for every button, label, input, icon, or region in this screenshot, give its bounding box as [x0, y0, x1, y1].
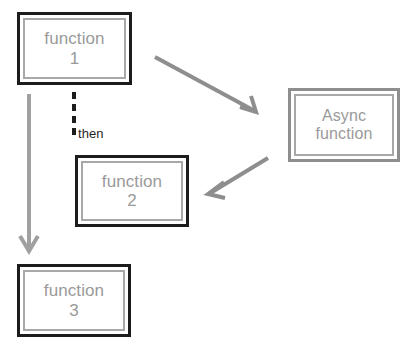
node-async-function[interactable]: Async function — [288, 88, 400, 162]
dash-segment — [72, 92, 76, 99]
node-function-2[interactable]: function 2 — [75, 155, 189, 227]
arrow-function-1-to-function-3 — [20, 94, 38, 251]
node-async-function-inner: Async function — [294, 94, 394, 156]
then-connector-label: then — [78, 126, 104, 141]
flowchart-diagram: then function 1 function 2 function 3 As… — [0, 0, 414, 353]
node-function-1-label: function 1 — [44, 29, 104, 67]
arrow-async-function-to-function-2 — [208, 158, 268, 198]
node-function-2-inner: function 2 — [81, 161, 183, 221]
then-dashed-connector — [72, 92, 76, 140]
node-function-1[interactable]: function 1 — [17, 12, 132, 85]
node-function-2-label: function 2 — [102, 172, 162, 210]
dash-segment — [72, 104, 76, 111]
node-function-3[interactable]: function 3 — [17, 264, 131, 337]
arrow-function-1-to-async-function — [155, 57, 256, 112]
dash-segment — [72, 128, 76, 135]
dash-segment — [72, 116, 76, 123]
node-async-function-label: Async function — [316, 107, 373, 143]
node-function-3-label: function 3 — [44, 281, 104, 319]
node-function-3-inner: function 3 — [23, 270, 125, 331]
node-function-1-inner: function 1 — [23, 18, 126, 79]
